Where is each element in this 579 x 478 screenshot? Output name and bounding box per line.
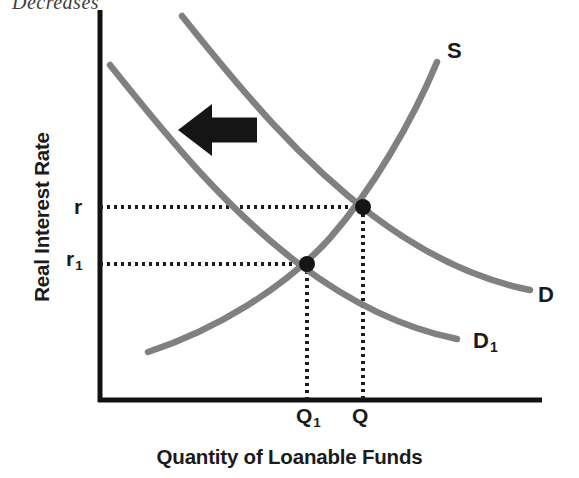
x-tick-label-q: Q bbox=[352, 404, 368, 428]
loanable-funds-diagram: Decreases bbox=[0, 0, 579, 478]
quantity-new-letter: Q bbox=[296, 404, 312, 427]
diagram-canvas bbox=[0, 0, 579, 478]
equilibrium-point-initial bbox=[355, 199, 371, 215]
y-axis-title: Real Interest Rate bbox=[30, 92, 54, 342]
rate-new-letter: r bbox=[66, 247, 74, 270]
y-tick-label-r1: r1 bbox=[66, 247, 82, 271]
demand-shifted-letter: D bbox=[473, 328, 489, 353]
equilibrium-point-new bbox=[299, 256, 315, 272]
supply-curve-label: S bbox=[447, 38, 462, 64]
demand-curve-label: D bbox=[538, 282, 554, 308]
demand-shifted-subscript: 1 bbox=[490, 339, 498, 355]
x-axis-title: Quantity of Loanable Funds bbox=[0, 445, 579, 469]
quantity-new-subscript: 1 bbox=[313, 415, 321, 430]
x-tick-label-q1: Q1 bbox=[296, 404, 320, 428]
demand-curve-shifted bbox=[110, 65, 457, 339]
shift-arrow-left-icon bbox=[178, 104, 257, 156]
rate-new-subscript: 1 bbox=[75, 258, 83, 273]
demand-curve bbox=[182, 16, 530, 290]
y-tick-label-r: r bbox=[74, 195, 82, 219]
guide-lines bbox=[100, 207, 363, 400]
demand-curve-shifted-label: D1 bbox=[473, 328, 497, 354]
